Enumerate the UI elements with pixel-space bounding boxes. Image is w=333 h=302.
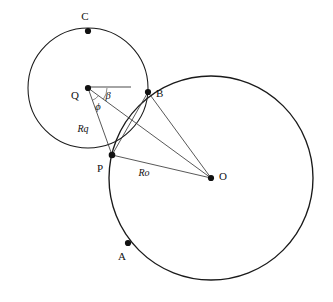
segment-P-to-O-radius-Ro: [112, 155, 211, 178]
geometry-diagram: C Q B P O A Rq Ro β ϕ: [0, 0, 333, 302]
vertex-dot-C: [85, 28, 91, 34]
vertex-dot-Q: [85, 85, 91, 91]
vertex-dot-O: [208, 175, 214, 181]
vertex-dot-B: [145, 89, 151, 95]
point-label-Q: Q: [71, 89, 79, 101]
length-label-Rq: Rq: [76, 123, 88, 134]
vertex-dot-A: [125, 240, 131, 246]
segment-P-to-B-chord: [112, 92, 148, 155]
segment-B-to-O: [148, 92, 211, 178]
angle-label-phi: ϕ: [95, 101, 101, 112]
angle-label-beta: β: [104, 90, 111, 101]
point-label-B: B: [156, 87, 163, 99]
vertex-dot-P: [109, 152, 116, 159]
point-label-A: A: [118, 250, 126, 262]
point-label-P: P: [97, 162, 103, 174]
point-label-O: O: [219, 170, 227, 182]
point-label-C: C: [81, 10, 88, 22]
geometry-canvas: C Q B P O A Rq Ro β ϕ: [0, 0, 333, 302]
angle-arc-phi: [92, 96, 98, 101]
segment-Q-to-O: [88, 88, 211, 178]
length-label-Ro: Ro: [137, 167, 149, 178]
